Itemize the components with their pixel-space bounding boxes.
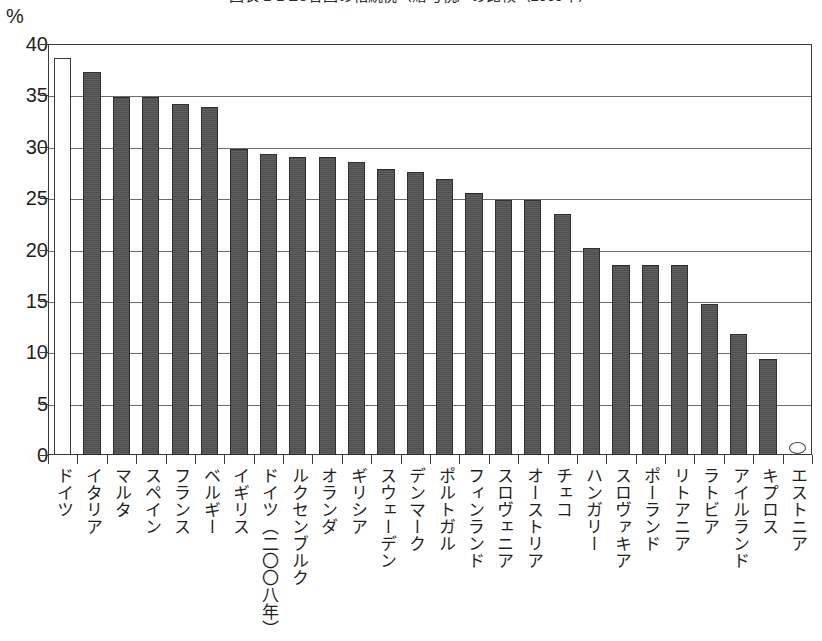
x-axis-label: ギリシア bbox=[348, 467, 367, 535]
x-tick-mark bbox=[371, 455, 372, 464]
x-axis-label: エストニア bbox=[788, 467, 807, 552]
y-axis: 4035302520151050 bbox=[0, 0, 48, 641]
y-tick-mark-35 bbox=[40, 95, 48, 96]
x-tick-mark bbox=[48, 455, 49, 464]
x-tick-mark bbox=[606, 455, 607, 464]
x-tick-mark bbox=[518, 455, 519, 464]
x-axis-label: ドイツ（二〇〇八年） bbox=[259, 467, 278, 637]
x-tick-mark bbox=[107, 455, 108, 464]
y-tick-mark-15 bbox=[40, 301, 48, 302]
x-tick-mark bbox=[342, 455, 343, 464]
x-tick-mark bbox=[77, 455, 78, 464]
x-tick-mark bbox=[753, 455, 754, 464]
x-axis: ドイツイタリアマルタスペインフランスベルギーイギリスドイツ（二〇〇八年）ルクセン… bbox=[48, 455, 812, 641]
x-tick-mark bbox=[548, 455, 549, 464]
x-tick-mark bbox=[577, 455, 578, 464]
x-tick-mark bbox=[283, 455, 284, 464]
x-axis-label: ドイツ bbox=[54, 467, 73, 518]
x-axis-label: キプロス bbox=[759, 467, 778, 535]
x-tick-mark bbox=[636, 455, 637, 464]
x-axis-label: スロヴェニア bbox=[494, 467, 513, 569]
chart-title: 図表 1-1 EU各国の相続税（贈与税）の比較（2009年） bbox=[0, 0, 822, 5]
x-tick-mark bbox=[430, 455, 431, 464]
x-axis-label: マルタ bbox=[112, 467, 131, 518]
x-tick-mark bbox=[812, 455, 813, 464]
x-tick-mark bbox=[254, 455, 255, 464]
gridline-5 bbox=[49, 405, 811, 406]
x-axis-label: リトアニア bbox=[671, 467, 690, 552]
x-axis-label: スペイン bbox=[142, 467, 161, 535]
plot-area bbox=[48, 44, 812, 455]
x-tick-mark bbox=[489, 455, 490, 464]
gridline-30 bbox=[49, 148, 811, 149]
x-axis-label: ルクセンブルク bbox=[289, 467, 308, 586]
x-tick-mark bbox=[166, 455, 167, 464]
x-axis-label: フランス bbox=[171, 467, 190, 535]
chart-page: 図表 1-1 EU各国の相続税（贈与税）の比較（2009年） % 4035302… bbox=[0, 0, 822, 641]
y-tick-mark-40 bbox=[40, 44, 48, 45]
x-axis-label: ポルトガル bbox=[436, 467, 455, 552]
gridline-35 bbox=[49, 96, 811, 97]
y-tick-mark-5 bbox=[40, 404, 48, 405]
x-axis-label: スロヴァキア bbox=[612, 467, 631, 569]
y-tick-mark-10 bbox=[40, 352, 48, 353]
x-tick-mark bbox=[401, 455, 402, 464]
x-axis-label: チェコ bbox=[553, 467, 572, 518]
x-axis-label: イタリア bbox=[83, 467, 102, 535]
x-tick-mark bbox=[224, 455, 225, 464]
gridline-25 bbox=[49, 199, 811, 200]
x-axis-label: ポーランド bbox=[641, 467, 660, 552]
x-axis-label: オランダ bbox=[318, 467, 337, 535]
x-axis-label: フィンランド bbox=[465, 467, 484, 569]
x-tick-mark bbox=[459, 455, 460, 464]
x-axis-label: アイルランド bbox=[730, 467, 749, 569]
x-axis-label: ハンガリー bbox=[583, 467, 602, 552]
gridline-15 bbox=[49, 302, 811, 303]
x-axis-label: イギリス bbox=[230, 467, 249, 535]
y-tick-mark-0 bbox=[40, 455, 48, 456]
y-tick-mark-20 bbox=[40, 250, 48, 251]
x-tick-mark bbox=[195, 455, 196, 464]
x-tick-mark bbox=[312, 455, 313, 464]
x-tick-mark bbox=[724, 455, 725, 464]
y-tick-mark-30 bbox=[40, 147, 48, 148]
y-tick-mark-25 bbox=[40, 198, 48, 199]
gridline-10 bbox=[49, 353, 811, 354]
x-axis-label: ベルギー bbox=[201, 467, 220, 535]
chart-title-strip: 図表 1-1 EU各国の相続税（贈与税）の比較（2009年） bbox=[0, 0, 822, 5]
x-tick-mark bbox=[694, 455, 695, 464]
x-axis-label: デンマーク bbox=[406, 467, 425, 552]
x-axis-label: オーストリア bbox=[524, 467, 543, 569]
x-tick-mark bbox=[783, 455, 784, 464]
x-tick-mark bbox=[665, 455, 666, 464]
x-axis-label: スウェーデン bbox=[377, 467, 396, 569]
x-axis-label: ラトビア bbox=[700, 467, 719, 535]
gridline-20 bbox=[49, 251, 811, 252]
x-tick-mark bbox=[136, 455, 137, 464]
